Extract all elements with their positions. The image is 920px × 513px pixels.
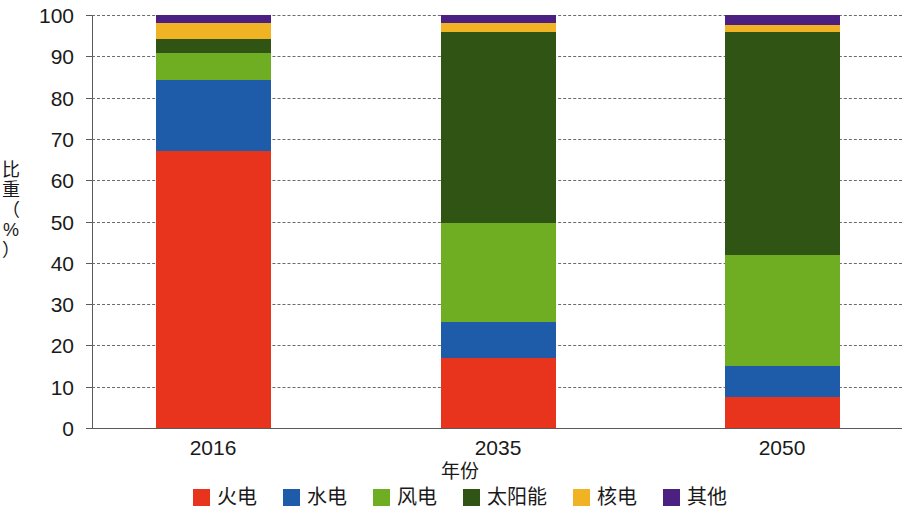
legend-swatch-icon: [463, 489, 480, 506]
x-axis-title: 年份: [0, 461, 920, 483]
legend-item[interactable]: 其他: [663, 487, 727, 507]
y-axis-title-char: 重: [0, 180, 26, 200]
bar-segment[interactable]: [441, 32, 556, 223]
legend-item[interactable]: 火电: [193, 487, 257, 507]
y-tick-mark: [86, 304, 92, 305]
legend-swatch-icon: [283, 489, 300, 506]
y-tick-label: 0: [62, 418, 74, 439]
x-axis-labels: 201620352050: [92, 436, 902, 462]
bar-segment[interactable]: [725, 366, 840, 397]
legend-label: 其他: [687, 487, 727, 507]
bar-segment[interactable]: [441, 23, 556, 31]
x-tick-label: 2035: [475, 436, 522, 460]
x-tick-label: 2016: [190, 436, 237, 460]
y-tick-label: 70: [51, 128, 74, 149]
bar-segment[interactable]: [725, 15, 840, 25]
y-axis-title-char: %: [0, 220, 26, 240]
legend-item[interactable]: 水电: [283, 487, 347, 507]
y-tick-label: 100: [39, 5, 74, 26]
y-tick-mark: [86, 428, 92, 429]
legend-item[interactable]: 风电: [373, 487, 437, 507]
y-tick-label: 50: [51, 211, 74, 232]
bar-segment[interactable]: [725, 255, 840, 367]
bar-segment[interactable]: [441, 223, 556, 322]
legend-label: 太阳能: [487, 487, 547, 507]
legend-item[interactable]: 核电: [573, 487, 637, 507]
bar-segment[interactable]: [156, 39, 271, 53]
y-tick-mark: [86, 15, 92, 16]
y-tick-mark: [86, 345, 92, 346]
bar-segment[interactable]: [441, 358, 556, 428]
y-tick-label: 30: [51, 294, 74, 315]
x-tick-label: 2050: [759, 436, 806, 460]
legend-swatch-icon: [573, 489, 590, 506]
chart-legend: 火电水电风电太阳能核电其他: [0, 487, 920, 507]
y-tick-mark: [86, 139, 92, 140]
y-tick-label: 90: [51, 46, 74, 67]
y-tick-mark: [86, 180, 92, 181]
legend-swatch-icon: [663, 489, 680, 506]
y-tick-label: 80: [51, 87, 74, 108]
bar-segment[interactable]: [725, 25, 840, 31]
legend-swatch-icon: [193, 489, 210, 506]
bar-segment[interactable]: [441, 322, 556, 358]
bar-segment[interactable]: [156, 15, 271, 23]
bar-2050[interactable]: [725, 15, 840, 428]
bar-2016[interactable]: [156, 15, 271, 428]
stacked-bar-chart: 0102030405060708090100 比重（%） 20162035205…: [0, 0, 920, 513]
bar-2035[interactable]: [441, 15, 556, 428]
y-axis-title: 比重（%）: [0, 160, 26, 260]
bar-segment[interactable]: [725, 397, 840, 428]
bar-segment[interactable]: [156, 23, 271, 39]
y-axis-title-char: 比: [0, 160, 26, 180]
bar-segment[interactable]: [441, 15, 556, 23]
plot-area: [92, 15, 902, 428]
y-tick-mark: [86, 56, 92, 57]
y-axis-title-char: （: [0, 200, 26, 220]
y-tick-mark: [86, 222, 92, 223]
y-tick-label: 40: [51, 252, 74, 273]
legend-label: 核电: [597, 487, 637, 507]
y-tick-label: 20: [51, 335, 74, 356]
legend-label: 火电: [217, 487, 257, 507]
y-tick-label: 60: [51, 170, 74, 191]
bar-segment[interactable]: [156, 151, 271, 428]
y-tick-mark: [86, 263, 92, 264]
bar-segment[interactable]: [156, 53, 271, 80]
y-tick-label: 10: [51, 376, 74, 397]
legend-label: 水电: [307, 487, 347, 507]
y-tick-mark: [86, 98, 92, 99]
y-tick-mark: [86, 387, 92, 388]
y-axis-title-char: ）: [0, 240, 26, 260]
bar-segment[interactable]: [725, 32, 840, 255]
bar-segment[interactable]: [156, 80, 271, 151]
legend-swatch-icon: [373, 489, 390, 506]
legend-label: 风电: [397, 487, 437, 507]
legend-item[interactable]: 太阳能: [463, 487, 547, 507]
axis-baseline: [92, 428, 902, 429]
